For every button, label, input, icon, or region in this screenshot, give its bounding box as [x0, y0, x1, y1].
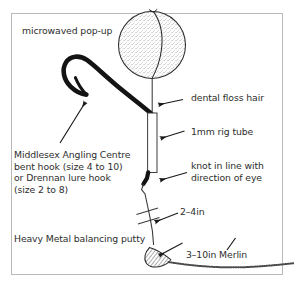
- balancing-putty: [145, 248, 171, 267]
- label-knot-line-1: knot in line with: [191, 160, 264, 172]
- label-merlin-hooklink: 3–10in Merlin: [186, 249, 247, 261]
- label-bent-hook-line-4: (size 2 to 8): [14, 184, 130, 196]
- label-balancing-putty: Heavy Metal balancing putty: [14, 233, 145, 245]
- label-rig-tube: 1mm rig tube: [191, 126, 253, 138]
- label-dental-floss-hair: dental floss hair: [191, 92, 264, 104]
- arrow-knot: [160, 173, 187, 181]
- label-gap-length: 2–4in: [180, 206, 204, 218]
- label-bent-hook: Middlesex Angling Centre bent hook (size…: [14, 149, 130, 195]
- arrow-dental-floss-hair: [159, 100, 184, 105]
- arrow-balancing-putty: [159, 243, 183, 256]
- arrow-bent-hook: [60, 102, 86, 143]
- merlin-hooklink: [169, 262, 295, 267]
- arrow-rig-tube: [161, 131, 185, 139]
- label-knot-line-2: direction of eye: [191, 172, 264, 184]
- rig-tube: [148, 113, 157, 173]
- label-microwaved-popup: microwaved pop-up: [22, 25, 112, 37]
- popup-boilie: [119, 12, 186, 79]
- label-bent-hook-line-3: or Drennan lure hook: [14, 172, 130, 184]
- label-bent-hook-line-1: Middlesex Angling Centre: [14, 149, 130, 161]
- label-bent-hook-line-2: bent hook (size 4 to 10): [14, 161, 130, 173]
- rig-diagram-figure: microwaved pop-up dental floss hair 1mm …: [0, 0, 294, 286]
- label-knot: knot in line with direction of eye: [191, 160, 264, 183]
